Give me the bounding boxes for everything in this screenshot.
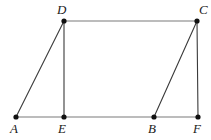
- segment-AD: [16, 21, 64, 117]
- vertex-label-C: C: [199, 3, 208, 16]
- segment-CF: [197, 21, 198, 117]
- figure-canvas: [0, 0, 211, 140]
- vertex-label-D: D: [57, 3, 66, 16]
- vertex-label-F: F: [193, 122, 201, 135]
- vertex-point-C: [194, 18, 199, 23]
- vertex-point-A: [13, 114, 18, 119]
- geometry-figure: AEBFDC: [0, 0, 211, 140]
- segment-BC: [154, 21, 197, 117]
- segments-group: [16, 21, 198, 117]
- vertex-label-B: B: [148, 122, 156, 135]
- vertex-label-A: A: [10, 122, 18, 135]
- points-group: [13, 18, 200, 119]
- vertex-label-E: E: [58, 122, 66, 135]
- vertex-point-E: [61, 114, 66, 119]
- vertex-point-F: [195, 114, 200, 119]
- vertex-point-D: [61, 18, 66, 23]
- vertex-point-B: [151, 114, 156, 119]
